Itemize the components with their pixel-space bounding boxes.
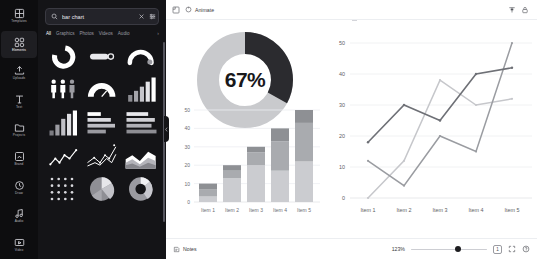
design-canvas[interactable]: 67% 0 (166, 20, 537, 238)
elements-search-panel: All Graphics Photos Videos Audio › (38, 0, 166, 259)
animate-label: Animate (195, 7, 214, 13)
draw-icon (14, 180, 25, 191)
canva-editor-window: Templates Elements Uploads (0, 0, 537, 259)
sidebar-item-audio[interactable]: Audio (1, 202, 37, 230)
notes-button[interactable]: Notes (173, 246, 197, 253)
svg-text:20: 20 (339, 133, 345, 139)
semicircle-gauge-graphic[interactable] (84, 75, 119, 105)
sidebar-label-text: Text (16, 106, 22, 109)
svg-text:Item 3: Item 3 (433, 207, 448, 213)
tab-graphics[interactable]: Graphics (56, 31, 74, 36)
svg-text:0: 0 (187, 199, 190, 205)
position-icon[interactable] (508, 6, 516, 14)
canvas-content: 67% 0 (166, 20, 537, 238)
tab-photos[interactable]: Photos (80, 31, 94, 36)
donut-chart-graphic[interactable] (123, 174, 158, 204)
svg-text:Item 1: Item 1 (361, 207, 376, 213)
help-icon[interactable] (522, 245, 530, 253)
search-box[interactable] (45, 8, 159, 25)
area-chart-graphic[interactable] (123, 141, 158, 171)
bottom-toolbar: Notes 123% 1 (166, 238, 537, 259)
line-chart-svg: 0 10 20 30 40 50 (324, 28, 536, 226)
panel-collapse-handle[interactable] (164, 116, 169, 142)
fullscreen-icon[interactable] (508, 245, 516, 253)
sidebar-item-brand[interactable]: Brand (1, 145, 37, 173)
sidebar-item-draw[interactable]: Draw (1, 173, 37, 201)
canvas-frame-icon[interactable] (172, 6, 180, 14)
sidebar-label-video: Video (15, 249, 24, 252)
zoom-slider-knob[interactable] (455, 246, 461, 252)
zoom-slider[interactable] (411, 245, 487, 253)
filter-tabs: All Graphics Photos Videos Audio › (38, 25, 166, 40)
elements-icon (14, 37, 25, 48)
sidebar-item-uploads[interactable]: Uploads (1, 59, 37, 87)
close-icon[interactable] (138, 13, 145, 20)
sidebar-item-templates[interactable]: Templates (1, 2, 37, 30)
svg-text:Item 3: Item 3 (249, 207, 263, 213)
svg-text:Item 5: Item 5 (297, 207, 311, 213)
filter-icon[interactable] (149, 13, 156, 20)
svg-text:10: 10 (184, 181, 190, 187)
templates-icon (14, 8, 25, 19)
left-rail: Templates Elements Uploads (0, 0, 38, 259)
sidebar-item-text[interactable]: Text (1, 88, 37, 116)
svg-text:40: 40 (184, 125, 190, 131)
arc-gauge-graphic[interactable] (123, 42, 158, 72)
bar-group-item1 (199, 184, 217, 202)
page-indicator[interactable]: 1 (493, 245, 502, 254)
svg-text:Item 2: Item 2 (397, 207, 412, 213)
sidebar-item-projects[interactable]: Projects (1, 116, 37, 144)
video-icon (14, 237, 25, 248)
scatter-line-graphic[interactable] (84, 141, 119, 171)
sidebar-label-elements: Elements (12, 49, 26, 52)
line-series-2 (367, 79, 513, 199)
ascending-bar-graphic[interactable] (123, 75, 158, 105)
tab-all[interactable]: All (46, 31, 51, 36)
zoom-value: 123% (392, 246, 405, 252)
sidebar-label-projects: Projects (13, 134, 25, 137)
pill-bar-graphic[interactable] (84, 42, 119, 72)
sidebar-label-audio: Audio (15, 220, 24, 223)
bar-y-ticks: 0 10 20 30 40 50 (184, 107, 190, 205)
bar-group-item5 (295, 110, 313, 202)
multi-line-chart[interactable]: 0 10 20 30 40 50 (324, 28, 536, 226)
people-pictogram-graphic[interactable] (46, 75, 81, 105)
svg-text:Item 2: Item 2 (225, 207, 239, 213)
notes-label: Notes (183, 246, 197, 252)
bar-column-graphic[interactable] (46, 108, 81, 138)
editor-area: Animate (166, 0, 537, 259)
stacked-bar-chart[interactable]: 0 10 20 30 40 50 (172, 100, 322, 228)
svg-text:40: 40 (339, 71, 345, 77)
search-input[interactable] (62, 14, 134, 20)
svg-text:20: 20 (184, 162, 190, 168)
horizontal-bar-alt-graphic[interactable] (123, 108, 158, 138)
sidebar-label-uploads: Uploads (13, 77, 25, 80)
bar-group-item2 (223, 165, 241, 202)
animate-button[interactable]: Animate (185, 6, 214, 13)
sidebar-label-brand: Brand (14, 163, 23, 166)
lock-icon[interactable] (521, 6, 529, 14)
tab-videos[interactable]: Videos (99, 31, 113, 36)
horizontal-bar-graphic[interactable] (84, 108, 119, 138)
svg-text:10: 10 (339, 164, 345, 170)
audio-icon (14, 208, 25, 219)
tabs-more-chevron-icon[interactable]: › (157, 30, 159, 36)
sidebar-label-templates: Templates (11, 20, 26, 23)
donut-ring-graphic[interactable] (46, 42, 81, 72)
bar-group-item4 (271, 128, 289, 202)
pie-chart-graphic[interactable] (84, 174, 119, 204)
svg-text:30: 30 (184, 144, 190, 150)
tab-audio[interactable]: Audio (118, 31, 130, 36)
sidebar-item-video[interactable]: Video (1, 231, 37, 259)
brand-icon (14, 151, 25, 162)
projects-icon (14, 122, 25, 133)
line-y-ticks: 0 10 20 30 40 50 (339, 40, 345, 201)
svg-text:50: 50 (339, 40, 345, 46)
text-icon (14, 94, 25, 105)
bar-chart-svg: 0 10 20 30 40 50 (172, 100, 322, 228)
dot-matrix-graphic[interactable] (46, 174, 81, 204)
notes-icon (173, 246, 180, 253)
line-chart-graphic[interactable] (46, 141, 81, 171)
sidebar-item-elements[interactable]: Elements (1, 31, 37, 59)
svg-text:Item 4: Item 4 (469, 207, 484, 213)
